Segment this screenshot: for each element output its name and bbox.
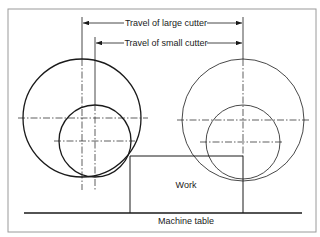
milling-cutter-diagram: Travel of large cutter Travel of small c…: [0, 0, 320, 237]
machine-table-label: Machine table: [158, 216, 214, 226]
work-label: Work: [176, 180, 197, 190]
travel-large-label: Travel of large cutter: [125, 18, 207, 28]
travel-small-label: Travel of small cutter: [124, 38, 207, 48]
